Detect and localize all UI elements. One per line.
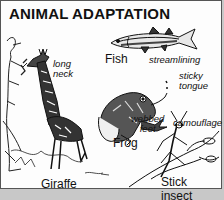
diagram-title: ANIMAL ADAPTATION: [9, 5, 170, 22]
adaptation-sticky-tongue: sticky tongue: [179, 71, 208, 91]
adaptation-webbed-feet: webbed feet: [131, 114, 164, 134]
diagram-frame: ANIMAL ADAPTATION long neck Fish streaml…: [0, 0, 222, 189]
fish-icon: [111, 27, 197, 53]
adaptation-camouflage: camouflage: [173, 118, 222, 128]
adaptation-long-neck: long neck: [53, 59, 73, 79]
adaptation-streamlining: streamlining: [149, 55, 200, 65]
note-neck: neck: [53, 69, 73, 79]
label-fish: Fish: [105, 52, 128, 66]
note-feet: feet: [131, 124, 164, 134]
label-giraffe: Giraffe: [41, 177, 77, 191]
tree-icon: [3, 38, 27, 171]
label-stick-insect: Stick insect: [161, 175, 221, 192]
label-frog: Frog: [113, 136, 138, 150]
note-tongue: tongue: [179, 81, 208, 91]
illustrations: [1, 1, 223, 190]
